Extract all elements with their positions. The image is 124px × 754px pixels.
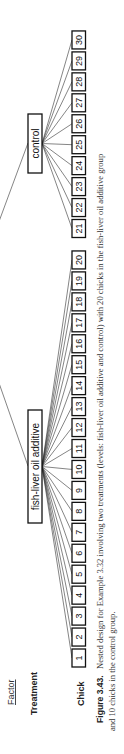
chick-number: 18 [74,297,84,307]
treatment-level-label: Treatment [29,672,39,715]
chick-number: 26 [74,119,84,129]
chick-number: 20 [74,255,84,265]
chick-number: 24 [74,161,84,171]
treatment-label-control: control [30,128,41,158]
chick-number: 1 [74,655,84,660]
chick-number: 21 [74,223,84,233]
chick-number: 19 [74,276,84,286]
chick-number: 14 [74,381,84,391]
chick-number: 17 [74,318,84,328]
chick-number: 10 [74,464,84,474]
chick-node: 17 [72,314,86,332]
factor-header: Factor [6,679,16,705]
chick-node: 6 [72,544,86,562]
chick-node: 7 [72,523,86,541]
chick-node: 25 [72,136,86,154]
chick-node: 30 [72,31,86,49]
chick-number: 8 [74,509,84,514]
chick-node: 4 [72,586,86,604]
root-edges [0,143,28,466]
chick-level-label: Chick [76,680,86,706]
tree-edges [42,40,72,658]
chick-node: 11 [72,440,86,458]
chick-number: 13 [74,402,84,412]
figure-caption-line1: Figure 3.43. Nested design for Example 3… [95,154,105,723]
chick-number: 22 [74,203,84,213]
chick-number: 2 [74,635,84,640]
chick-number: 27 [74,98,84,108]
chick-number: 4 [74,593,84,598]
chick-number: 6 [74,551,84,556]
chick-nodes: 1234567891011121314151617181920212223242… [72,31,86,667]
chick-node: 10 [72,460,86,478]
chick-node: 16 [72,335,86,353]
chick-node: 20 [72,251,86,269]
chick-node: 14 [72,377,86,395]
chick-node: 22 [72,199,86,217]
chick-node: 23 [72,178,86,196]
chick-node: 29 [72,52,86,70]
figure-caption-text: Nested design for Example 3.32 involving… [95,154,105,669]
chick-node: 8 [72,502,86,520]
treatment-node-control: control [28,114,42,173]
chick-node: 12 [72,419,86,437]
chick-node: 1 [72,649,86,667]
chick-number: 12 [74,423,84,433]
chick-number: 16 [74,339,84,349]
chick-node: 3 [72,607,86,625]
chick-number: 25 [74,140,84,150]
chick-number: 11 [74,444,84,453]
figure-caption-label: Figure 3.43. [95,675,105,723]
chick-node: 21 [72,220,86,238]
chick-number: 3 [74,614,84,619]
treatment-node-fish-liver: fish-liver oil additive [28,410,42,523]
chick-node: 18 [72,293,86,311]
chick-number: 23 [74,182,84,192]
chick-number: 5 [74,572,84,577]
chick-node: 26 [72,115,86,133]
chick-node: 24 [72,157,86,175]
chick-node: 15 [72,356,86,374]
chick-node: 2 [72,628,86,646]
chick-number: 29 [74,56,84,66]
treatment-label-fish-liver: fish-liver oil additive [30,422,41,510]
chick-node: 28 [72,73,86,91]
chick-node: 27 [72,94,86,112]
chick-node: 9 [72,481,86,499]
chick-number: 9 [74,488,84,493]
chick-number: 28 [74,77,84,87]
chick-node: 5 [72,565,86,583]
figure-caption-line2: and 10 chicks in the control group. [107,611,117,731]
chick-number: 7 [74,530,84,535]
chick-node: 13 [72,398,86,416]
chick-number: 15 [74,360,84,370]
chick-node: 19 [72,272,86,290]
nested-design-figure: Factor Treatment Chick fish-liver oil ad… [0,0,124,754]
chick-number: 30 [74,35,84,45]
